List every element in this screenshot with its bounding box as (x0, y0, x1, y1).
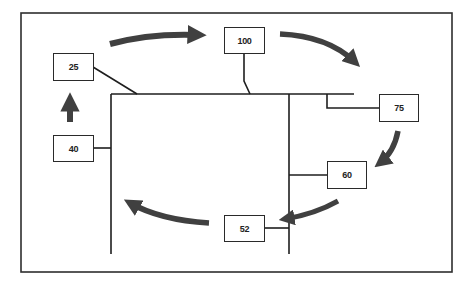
node-52: 52 (224, 215, 265, 242)
node-60-label: 60 (342, 170, 351, 180)
node-40: 40 (53, 135, 94, 162)
connector-25 (93, 67, 137, 94)
diagram-canvas: 25 100 75 60 52 40 (0, 0, 473, 287)
arrow-60-to-52 (285, 201, 338, 219)
node-52-label: 52 (240, 224, 249, 234)
node-60: 60 (327, 161, 367, 189)
node-100-label: 100 (237, 36, 251, 46)
arrow-75-to-60 (380, 131, 398, 163)
node-75-label: 75 (394, 103, 403, 113)
node-40-label: 40 (69, 144, 78, 154)
arrow-52-to-40 (130, 203, 209, 223)
node-75: 75 (379, 94, 419, 122)
flow-arrows (70, 34, 398, 223)
arrow-25-to-100 (110, 35, 199, 44)
connector-75 (327, 94, 379, 108)
node-25: 25 (53, 53, 94, 81)
connector-100 (244, 53, 250, 94)
arrow-100-to-75 (280, 34, 355, 62)
node-25-label: 25 (69, 62, 78, 72)
node-100: 100 (224, 27, 265, 54)
